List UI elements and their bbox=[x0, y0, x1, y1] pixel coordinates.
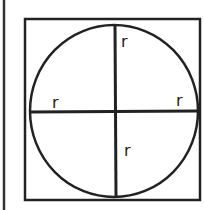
circle-in-square-diagram: r r r r bbox=[0, 0, 204, 210]
label-right-radius: r bbox=[176, 91, 183, 110]
label-top-radius: r bbox=[121, 32, 128, 51]
vertical-diameter bbox=[115, 25, 116, 197]
label-left-radius: r bbox=[52, 93, 59, 112]
label-bottom-radius: r bbox=[124, 141, 131, 160]
